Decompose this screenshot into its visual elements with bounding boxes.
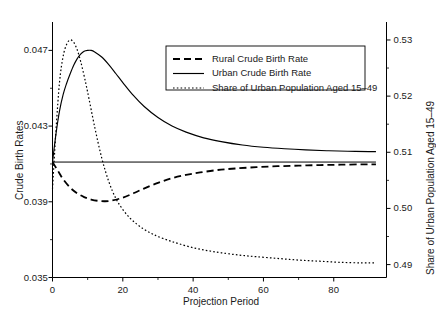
y-tick-label-right: 0.51 [394, 146, 413, 157]
series-line-1 [53, 162, 376, 201]
y-tick-label-right: 0.53 [394, 34, 413, 45]
y-axis-right-ticks [387, 40, 391, 265]
y-tick-label-right: 0.52 [394, 90, 413, 101]
x-axis-ticks [53, 278, 334, 282]
x-axis-title: Projection Period [183, 296, 259, 307]
x-tick-label: 40 [179, 284, 207, 295]
y-axis-left-title: Crude Birth Rates [14, 121, 25, 200]
y-tick-label-left: 0.035 [8, 272, 48, 283]
y-tick-label-left: 0.047 [8, 44, 48, 55]
x-tick-label: 60 [249, 284, 277, 295]
y-tick-label-right: 0.49 [394, 259, 413, 270]
y-axis-right-title: Share of Urban Population Aged 15–49 [425, 101, 436, 275]
y-tick-label-right: 0.50 [394, 202, 413, 213]
x-tick-label: 20 [109, 284, 137, 295]
legend-label-3: Share of Urban Population Aged 15–49 [212, 82, 377, 93]
legend-label-2: Urban Crude Birth Rate [212, 67, 311, 78]
legend-label-1: Rural Crude Birth Rate [212, 53, 308, 64]
x-tick-label: 0 [39, 284, 67, 295]
x-tick-label: 80 [320, 284, 348, 295]
y-axis-left-ticks [49, 50, 53, 277]
